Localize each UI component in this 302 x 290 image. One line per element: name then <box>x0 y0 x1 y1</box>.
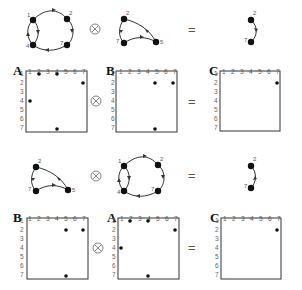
svg-text:4: 4 <box>215 244 219 251</box>
svg-text:2: 2 <box>126 10 130 16</box>
svg-text:2: 2 <box>38 158 42 164</box>
svg-text:2: 2 <box>111 79 115 86</box>
svg-text:6: 6 <box>111 115 115 122</box>
svg-text:7: 7 <box>215 271 219 278</box>
svg-text:4: 4 <box>112 244 116 251</box>
graph-a-top: 1 2 4 7 <box>26 8 74 52</box>
svg-text:7: 7 <box>151 186 155 192</box>
svg-text:7: 7 <box>112 271 116 278</box>
svg-text:5: 5 <box>111 106 115 113</box>
svg-text:4: 4 <box>20 244 24 251</box>
svg-text:6: 6 <box>215 262 219 269</box>
diagram-canvas: 1 2 4 7 2 7 5 = 2 7 A 123 <box>0 0 302 290</box>
graph-a-bottom: 1 2 4 7 <box>117 154 165 198</box>
svg-text:1: 1 <box>20 217 24 224</box>
svg-text:4: 4 <box>117 189 121 195</box>
svg-text:1: 1 <box>118 158 122 164</box>
matrix-a-bottom: A 123 4567 123 4567 <box>107 210 179 279</box>
times-operator-mat-top <box>91 96 101 106</box>
svg-text:2: 2 <box>253 156 257 162</box>
svg-text:7: 7 <box>20 124 24 131</box>
svg-text:6: 6 <box>20 262 24 269</box>
svg-text:2: 2 <box>160 156 164 162</box>
svg-text:2: 2 <box>253 10 257 16</box>
svg-text:3: 3 <box>20 88 24 95</box>
svg-text:2: 2 <box>112 226 116 233</box>
svg-text:4: 4 <box>111 97 115 104</box>
svg-text:3: 3 <box>111 88 115 95</box>
equals-mat-top: = <box>188 94 196 109</box>
svg-text:7: 7 <box>60 40 64 46</box>
equals-mat-bottom: = <box>188 240 196 255</box>
svg-text:1: 1 <box>20 70 24 77</box>
equals-top: = <box>188 22 196 37</box>
times-operator-mat-bottom <box>93 243 103 253</box>
svg-text:1: 1 <box>27 12 31 18</box>
svg-text:3: 3 <box>20 235 24 242</box>
svg-text:5: 5 <box>112 253 116 260</box>
svg-text:7: 7 <box>244 37 248 43</box>
node-4 <box>30 42 36 48</box>
svg-text:1: 1 <box>215 217 219 224</box>
svg-text:7: 7 <box>244 183 248 189</box>
svg-text:3: 3 <box>215 235 219 242</box>
times-operator-bottom <box>91 171 101 181</box>
matrix-b-top: B 123 4567 123 4567 <box>106 63 177 132</box>
svg-text:7: 7 <box>20 271 24 278</box>
svg-text:2: 2 <box>69 10 73 16</box>
svg-text:6: 6 <box>112 262 116 269</box>
svg-text:6: 6 <box>20 115 24 122</box>
node-1 <box>30 17 36 23</box>
svg-text:2: 2 <box>20 226 24 233</box>
svg-text:7: 7 <box>28 186 32 192</box>
matrix-b-bottom: B 123 4567 123 4567 <box>13 210 88 279</box>
svg-text:5: 5 <box>215 253 219 260</box>
svg-text:4: 4 <box>26 43 30 49</box>
svg-text:6: 6 <box>214 115 218 122</box>
matrix-c-bottom: C 123 4567 123 4567 <box>210 210 281 279</box>
matrix-a-top: A 123 4567 123 4567 <box>13 63 87 132</box>
svg-text:2: 2 <box>215 226 219 233</box>
svg-text:1: 1 <box>112 217 116 224</box>
node-2 <box>64 16 70 22</box>
node-7 <box>64 42 70 48</box>
svg-text:2: 2 <box>214 79 218 86</box>
svg-text:7: 7 <box>116 38 120 44</box>
svg-text:7: 7 <box>214 124 218 131</box>
svg-text:3: 3 <box>112 235 116 242</box>
graph-b-bottom: 2 7 5 <box>28 158 76 194</box>
svg-text:1: 1 <box>214 70 218 77</box>
svg-text:4: 4 <box>20 97 24 104</box>
graph-c-bottom: 2 7 <box>244 156 257 191</box>
svg-text:5: 5 <box>20 106 24 113</box>
svg-text:1: 1 <box>111 70 115 77</box>
times-operator-top <box>90 24 100 34</box>
graph-b-top: 2 7 5 <box>116 10 164 46</box>
svg-text:7: 7 <box>111 124 115 131</box>
svg-text:5: 5 <box>72 187 76 193</box>
svg-text:5: 5 <box>214 106 218 113</box>
graph-c-top: 2 7 <box>244 10 258 45</box>
matrix-c-top: C 123 4567 123 4567 <box>209 63 280 131</box>
svg-text:2: 2 <box>20 79 24 86</box>
svg-text:4: 4 <box>214 97 218 104</box>
equals-bottom: = <box>188 168 196 183</box>
svg-text:5: 5 <box>160 39 164 45</box>
svg-text:5: 5 <box>20 253 24 260</box>
svg-text:3: 3 <box>214 88 218 95</box>
